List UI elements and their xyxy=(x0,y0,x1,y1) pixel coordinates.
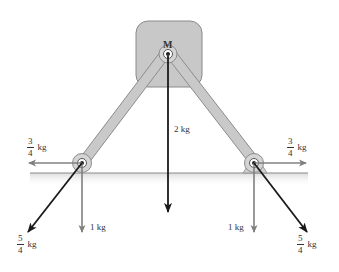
fraction-numerator: 3 xyxy=(27,137,34,148)
fraction-numerator: 5 xyxy=(17,234,24,245)
right-diagonal-label: 54 kg xyxy=(297,234,317,255)
left-rod xyxy=(80,47,172,164)
fraction-numerator: 3 xyxy=(287,137,294,148)
center-down-label: 2 kg xyxy=(174,125,190,134)
top-block-label: M xyxy=(163,40,172,50)
right-down-label: 1 kg xyxy=(228,223,244,232)
right-rod xyxy=(164,47,258,164)
right-horizontal-label: 34 kg xyxy=(287,137,307,158)
left-horizontal-label: 34 kg xyxy=(27,137,47,158)
fraction-denominator: 4 xyxy=(298,245,303,255)
unit: kg xyxy=(38,143,47,152)
fraction-denominator: 4 xyxy=(18,245,23,255)
fraction-numerator: 5 xyxy=(297,234,304,245)
left-diagonal-label: 54 kg xyxy=(17,234,37,255)
unit: kg xyxy=(298,143,307,152)
unit: kg xyxy=(28,240,37,249)
force-diagram: M 2 kg 34 kg 34 kg 1 kg 1 kg 54 kg 54 kg xyxy=(0,0,339,272)
unit: kg xyxy=(308,240,317,249)
left-down-label: 1 kg xyxy=(90,223,106,232)
fraction-denominator: 4 xyxy=(288,148,293,158)
fraction-denominator: 4 xyxy=(28,148,33,158)
